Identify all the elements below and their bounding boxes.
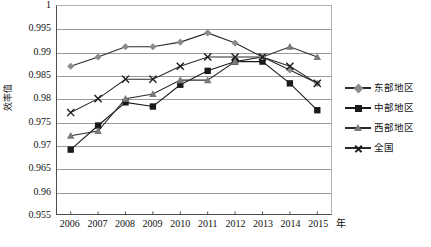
legend-label: 全国	[371, 142, 394, 154]
data-point-diamond	[232, 39, 239, 46]
y-tick-label: 0.995	[7, 23, 51, 33]
y-tick-label: 0.955	[7, 210, 51, 220]
legend-item-1[interactable]: 东部地区	[345, 78, 431, 98]
legend-marker-triangle-icon	[345, 122, 371, 134]
data-point-triangle	[314, 53, 322, 60]
legend-marker-diamond-icon	[345, 82, 371, 94]
data-point-square	[150, 103, 156, 109]
legend-item-2[interactable]: 中部地区	[345, 98, 431, 118]
x-axis-tick-labels: 2006200720082009201020112012201320142015	[56, 218, 332, 234]
y-tick-label: 0.98	[7, 93, 51, 103]
legend-label: 西部地区	[371, 122, 414, 134]
y-tick-label: 0.965	[7, 163, 51, 173]
legend-marker-cross-icon	[345, 142, 371, 154]
x-axis-unit-label: 年	[336, 218, 346, 230]
y-tick-label: 0.985	[7, 70, 51, 80]
data-point-square	[287, 80, 293, 86]
data-point-cross	[95, 95, 102, 102]
series-line	[71, 62, 318, 150]
chart-legend: 东部地区中部地区西部地区全国	[345, 78, 431, 158]
legend-item-3[interactable]: 西部地区	[345, 118, 431, 138]
legend-label: 中部地区	[371, 102, 414, 114]
y-tick-label: 1	[7, 0, 51, 10]
legend-label: 东部地区	[371, 82, 414, 94]
data-point-diamond	[177, 39, 184, 46]
data-point-triangle	[286, 43, 294, 50]
chart-container: 效率值 10.9950.990.9850.980.9750.970.9650.9…	[0, 0, 431, 247]
data-point-square	[68, 146, 74, 152]
data-point-square	[205, 68, 211, 74]
y-tick-label: 0.96	[7, 187, 51, 197]
y-tick-label: 0.975	[7, 117, 51, 127]
y-tick-label: 0.99	[7, 47, 51, 57]
plot-area	[56, 5, 332, 215]
data-point-cross	[177, 63, 184, 70]
legend-item-4[interactable]: 全国	[345, 138, 431, 158]
x-tick-label: 2015	[298, 218, 338, 230]
data-point-diamond	[67, 63, 74, 70]
legend-marker-square-icon	[345, 102, 371, 114]
data-point-diamond	[149, 43, 156, 50]
data-point-diamond	[95, 53, 102, 60]
data-point-square	[314, 107, 320, 113]
series-layer	[57, 6, 331, 214]
y-tick-label: 0.97	[7, 140, 51, 150]
data-point-diamond	[204, 29, 211, 36]
data-point-diamond	[122, 43, 129, 50]
data-point-cross	[67, 109, 74, 116]
y-axis-tick-labels: 10.9950.990.9850.980.9750.970.9650.960.9…	[3, 0, 51, 247]
data-point-triangle	[149, 90, 157, 97]
